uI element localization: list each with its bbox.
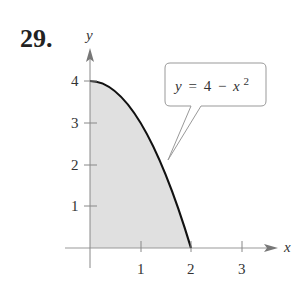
y-tick-label: 4 bbox=[71, 73, 79, 89]
x-tick-label: 3 bbox=[238, 261, 246, 277]
y-tick-label: 3 bbox=[71, 115, 79, 131]
equation-callout: y = 4 − x 2 bbox=[165, 63, 266, 160]
x-tick-label: 2 bbox=[187, 261, 195, 277]
x-axis-label: x bbox=[283, 239, 291, 255]
y-tick-label: 2 bbox=[71, 157, 79, 173]
y-tick-label: 1 bbox=[71, 198, 79, 214]
graph: 4 3 2 1 1 2 3 x y y = 4 − x 2 bbox=[0, 0, 297, 291]
x-tick-label: 1 bbox=[137, 261, 145, 277]
equation-label: y = 4 − x 2 bbox=[173, 75, 249, 94]
y-axis-label: y bbox=[84, 27, 93, 43]
